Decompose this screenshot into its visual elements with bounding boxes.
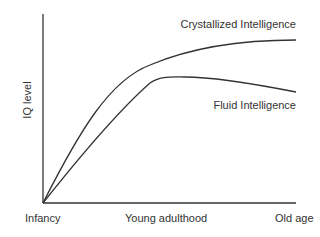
legend-fluid: Fluid Intelligence: [213, 99, 296, 111]
crystallized-line: [43, 40, 296, 203]
x-tick-young-adulthood: Young adulthood: [125, 212, 207, 224]
x-tick-infancy: Infancy: [25, 212, 60, 224]
y-axis-label: IQ level: [21, 81, 33, 118]
fluid-line: [43, 77, 296, 203]
chart-plot: [0, 0, 320, 237]
x-tick-old-age: Old age: [275, 212, 314, 224]
legend-crystallized: Crystallized Intelligence: [180, 18, 296, 30]
